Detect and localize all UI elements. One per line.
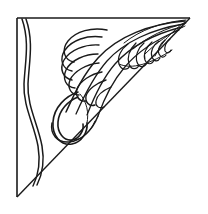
plume-spine <box>52 21 185 142</box>
corner-ornament-illustration: Decorative Corner Ornament <box>0 0 208 214</box>
s-wave-inner-line <box>26 19 43 185</box>
ornament-canvas: Decorative Corner Ornament <box>0 0 208 214</box>
s-wave-margin <box>22 19 43 186</box>
